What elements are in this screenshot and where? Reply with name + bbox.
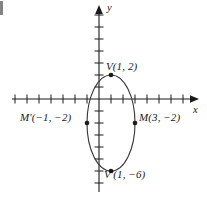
label-covertex-left: M′(−1, −2) [20, 111, 71, 123]
x-axis-label: x [193, 104, 198, 115]
point-covertex-right [133, 121, 138, 126]
ellipse-curve [87, 75, 135, 171]
plotted-points [85, 73, 138, 174]
y-axis-label: y [107, 2, 112, 13]
label-vertex-bottom: V′(1, −6) [104, 168, 145, 180]
label-vertex-top: V(1, 2) [106, 60, 137, 72]
point-vertex-top [109, 73, 114, 78]
ellipse-graph-figure: V(1, 2) V′(1, −6) M′(−1, −2) M(3, −2) x … [0, 0, 207, 198]
label-covertex-right: M(3, −2) [139, 111, 180, 123]
point-covertex-left [85, 121, 90, 126]
